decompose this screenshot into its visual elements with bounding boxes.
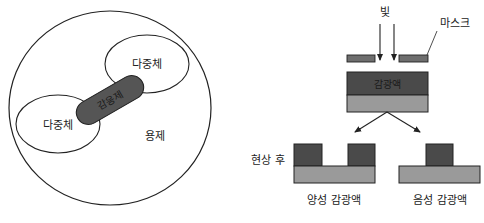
mask-bar-left <box>347 55 375 62</box>
polymer-label-top: 다중체 <box>132 58 162 71</box>
photoresist-label: 감광액 <box>374 79 401 90</box>
positive-resist-result: 양성 감광액 <box>294 144 375 207</box>
positive-block-left <box>294 144 322 166</box>
negative-substrate <box>399 166 480 183</box>
mask-bar-right <box>399 55 428 62</box>
light-label: 빛 <box>380 6 390 19</box>
polymer-label-left: 다중체 <box>43 119 73 132</box>
negative-block <box>426 144 453 166</box>
after-development-label: 현상 후 <box>251 154 285 167</box>
branch-arrow-positive <box>355 112 387 132</box>
substrate-layer <box>347 95 428 112</box>
branch-arrow-negative <box>387 112 420 132</box>
micelle-diagram: 감응제 다중체 다중체 용제 <box>9 11 211 205</box>
mask-leader-line <box>427 31 437 55</box>
positive-block-right <box>348 144 375 166</box>
solvent-label: 용제 <box>145 130 165 143</box>
negative-resist-label: 음성 감광액 <box>413 194 467 207</box>
positive-resist-label: 양성 감광액 <box>307 194 361 207</box>
photoresist-diagram: 감응제 다중체 다중체 용제 빛 마스크 감광액 현상 후 양성 감광액 <box>0 0 484 223</box>
negative-resist-result: 음성 감광액 <box>399 144 480 207</box>
positive-substrate <box>294 166 375 183</box>
mask-label: 마스크 <box>440 17 470 30</box>
lithography-diagram: 빛 마스크 감광액 현상 후 양성 감광액 음성 감광액 <box>251 6 480 207</box>
resist-stack: 감광액 <box>347 72 428 112</box>
